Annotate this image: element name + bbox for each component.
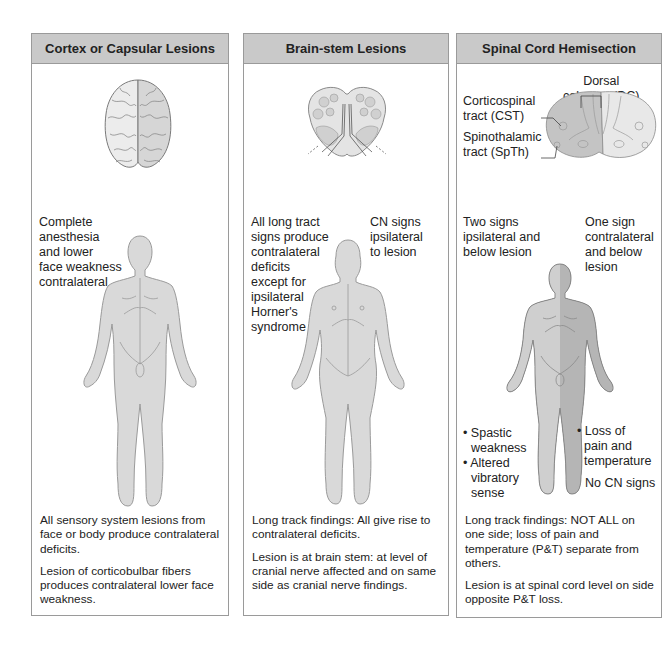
spinal-cord-cross-section-illustration: [457, 34, 663, 214]
body-label-spastic-weakness-vibratory: • Spastic weakness • Altered vibratory s…: [463, 426, 527, 501]
notes-brainstem: Long track findings: All give rise to co…: [252, 513, 442, 600]
panel-title: Cortex or Capsular Lesions: [32, 34, 228, 64]
notes-spinal: Long track findings: NOT ALL on one side…: [465, 513, 655, 615]
body-label-loss-pain-temperature: • Loss of pain and temperature: [577, 424, 651, 469]
body-label-no-cn-signs: No CN signs: [585, 476, 655, 491]
brain-top-view-illustration: [98, 78, 178, 170]
panel-cortex-capsular: Cortex or Capsular Lesions Complete anes…: [31, 33, 229, 616]
female-body-figure: [288, 238, 408, 508]
body-label-two-signs-ipsilateral: Two signs ipsilateral and below lesion: [463, 215, 540, 260]
panel-brainstem: Brain-stem Lesions All long tract signs …: [243, 33, 449, 616]
panel-spinal-cord-hemisection: Spinal Cord Hemisection Dorsal columns (…: [456, 33, 662, 618]
notes-cortex: All sensory system lesions from face or …: [40, 513, 222, 615]
panel-title: Brain-stem Lesions: [244, 34, 448, 64]
brainstem-cross-section-illustration: [300, 84, 394, 162]
male-body-figure: [80, 234, 200, 512]
